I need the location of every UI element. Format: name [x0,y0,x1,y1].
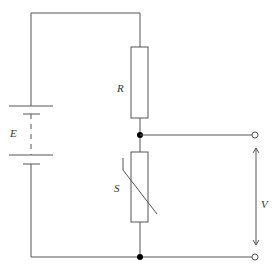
battery-label: E [9,127,17,139]
circuit-diagram: E R S V [0,0,276,267]
resistor-label: R [116,82,124,94]
top-wire [31,13,140,47]
resistor-icon [131,47,148,118]
terminal-bottom[interactable] [252,254,258,260]
voltage-arrow-icon [253,148,259,245]
voltage-label: V [261,198,269,210]
terminal-top[interactable] [252,132,258,138]
junction-node-bottom [137,254,143,260]
left-wire-lower [31,164,252,257]
sensor-label: S [114,182,120,194]
sensor-diagonal [123,158,157,214]
sensor-icon [131,152,148,222]
